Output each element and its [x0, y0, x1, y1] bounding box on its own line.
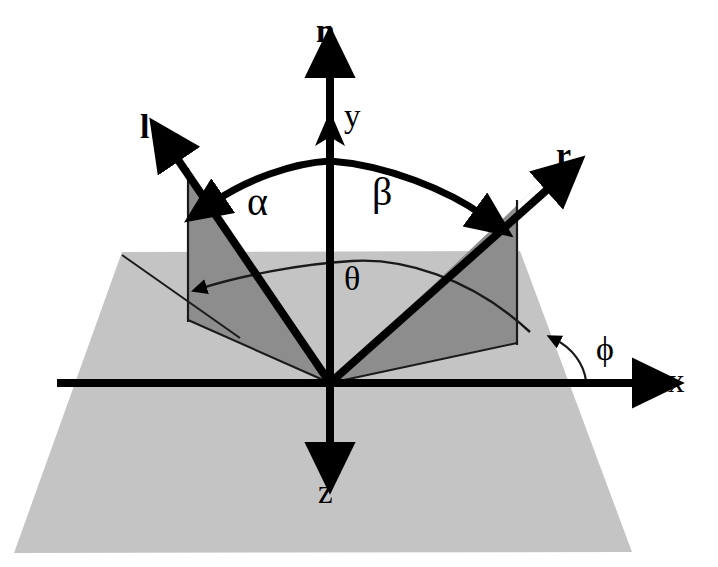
label-beta-angle: β — [372, 172, 392, 212]
alpha-arc — [214, 161, 330, 202]
label-reflection-vector: r — [556, 138, 571, 172]
label-x-axis: x — [668, 365, 685, 398]
label-light-vector: l — [140, 110, 149, 144]
diagram-canvas: n y z x l r α β θ ϕ — [0, 0, 718, 567]
label-z-axis: z — [318, 476, 333, 509]
label-y-axis: y — [344, 100, 361, 133]
label-phi-angle: ϕ — [596, 332, 614, 366]
label-theta-angle: θ — [344, 262, 360, 296]
label-alpha-angle: α — [247, 182, 268, 222]
beta-arc — [330, 161, 484, 216]
label-normal-vector: n — [316, 14, 335, 48]
